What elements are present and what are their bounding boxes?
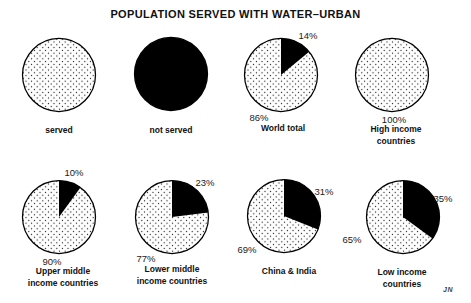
pie-low-income (363, 177, 443, 257)
legend-not-served-circle (131, 34, 211, 114)
chart-canvas: POPULATION SERVED WITH WATER–URBAN serve… (0, 0, 471, 303)
pie-world-total-served-pct: 86% (249, 112, 268, 123)
pie-lower-middle-label: Lower middle income countries (137, 264, 207, 287)
legend-served-circle (19, 35, 99, 115)
pie-upper-middle-income (19, 177, 99, 257)
pie-world-total-label: World total (261, 123, 305, 135)
pie-world-total (241, 35, 321, 115)
legend-served-label: served (45, 125, 72, 137)
pie-upper-middle-notserved-pct: 10% (64, 167, 83, 178)
pie-low-income-notserved-pct: 35% (433, 193, 452, 204)
pie-low-income-label: Low income countries (368, 267, 437, 290)
pie-lower-middle-served-pct: 77% (136, 253, 155, 264)
pie-low-income-served-pct: 65% (342, 234, 361, 245)
chart-title: POPULATION SERVED WITH WATER–URBAN (0, 8, 471, 20)
pie-china-india-notserved-pct: 31% (314, 186, 333, 197)
pie-china-india-label: China & India (262, 266, 316, 278)
pie-world-total-notserved-pct: 14% (298, 30, 317, 41)
pie-high-income (352, 35, 432, 115)
pie-lower-middle-notserved-pct: 23% (195, 177, 214, 188)
pie-high-income-label: High income countries (359, 124, 434, 147)
pie-lower-middle-income (132, 177, 212, 257)
artist-signature: JN (443, 286, 453, 293)
legend-not-served-label: not served (150, 125, 193, 137)
pie-china-india-served-pct: 69% (237, 244, 256, 255)
pie-upper-middle-label: Upper middle income countries (28, 266, 98, 289)
